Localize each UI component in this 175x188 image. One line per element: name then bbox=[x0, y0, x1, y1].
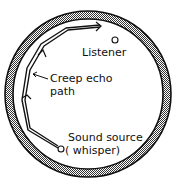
sound-source-marker bbox=[58, 146, 64, 152]
listener-label: Listener bbox=[82, 46, 127, 59]
creep-label-line1: Creep echo bbox=[50, 72, 113, 85]
whispering-gallery-diagram: Listener Creep echo path Sound source ( … bbox=[0, 0, 175, 188]
source-label-line2: ( whisper) bbox=[65, 144, 120, 157]
source-label-line1: Sound source bbox=[68, 131, 143, 144]
listener-marker bbox=[112, 37, 118, 43]
creep-label-line2: path bbox=[50, 85, 75, 98]
arrow-head-icon bbox=[38, 50, 46, 57]
